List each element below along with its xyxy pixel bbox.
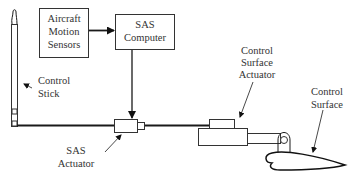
cs-actuator-valve	[210, 120, 235, 129]
sensors-label-line3: Sensors	[48, 39, 81, 50]
stick-label-line2: Stick	[38, 88, 60, 99]
cs-actuator-label-line1: Control	[241, 45, 273, 56]
sas-actuator	[115, 120, 145, 133]
control-surface-airfoil	[266, 152, 345, 170]
control-surface-pointer-arrow	[313, 110, 323, 152]
sas-diagram: Aircraft Motion Sensors SAS Computer Con…	[0, 0, 353, 181]
computer-label-line1: SAS	[135, 19, 154, 30]
sas-actuator-pointer-arrow	[105, 135, 121, 152]
stick-label-line1: Control	[38, 75, 70, 86]
control-surface-label-line2: Surface	[311, 99, 343, 110]
sensors-label-line1: Aircraft	[47, 13, 80, 24]
sas-actuator-label-line1: SAS	[66, 145, 85, 156]
stick-grip-icon	[12, 10, 17, 24]
control-stick	[12, 10, 18, 127]
sas-actuator-nub	[138, 123, 145, 130]
sas-computer-block: SAS Computer	[116, 15, 175, 50]
cs-actuator-pointer-arrow	[240, 82, 253, 117]
computer-label-line2: Computer	[124, 32, 166, 43]
cs-actuator-body	[199, 129, 248, 146]
cs-actuator-label-line2: Surface	[241, 57, 273, 68]
control-surface-label-line1: Control	[311, 86, 343, 97]
sas-actuator-body	[115, 120, 138, 133]
stick-pointer-arrow	[24, 84, 32, 88]
cs-actuator-rod	[248, 134, 281, 144]
sensors-label-line2: Motion	[49, 26, 81, 37]
stick-pivot-lower	[12, 121, 17, 126]
horn-pivot	[281, 137, 288, 144]
stick-pivot-upper	[12, 109, 17, 114]
aircraft-motion-sensors-block: Aircraft Motion Sensors	[40, 9, 89, 58]
control-surface-actuator	[199, 120, 281, 146]
cs-actuator-label-line3: Actuator	[239, 69, 276, 80]
sas-actuator-label-line2: Actuator	[58, 158, 95, 169]
